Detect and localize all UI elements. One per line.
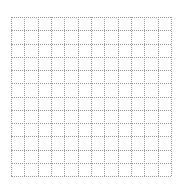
grid-vertical-line: [51, 17, 52, 176]
grid-vertical-line: [11, 17, 12, 176]
grid-vertical-line: [64, 17, 65, 176]
grid-vertical-line: [118, 17, 119, 176]
grid-horizontal-line: [11, 176, 171, 177]
canvas: [0, 0, 180, 188]
grid-vertical-line: [38, 17, 39, 176]
grid-vertical-line: [171, 17, 172, 176]
dotted-grid: [11, 17, 171, 176]
grid-vertical-line: [24, 17, 25, 176]
grid-vertical-line: [144, 17, 145, 176]
grid-vertical-line: [78, 17, 79, 176]
grid-vertical-line: [158, 17, 159, 176]
grid-vertical-line: [91, 17, 92, 176]
grid-vertical-line: [104, 17, 105, 176]
grid-vertical-line: [131, 17, 132, 176]
